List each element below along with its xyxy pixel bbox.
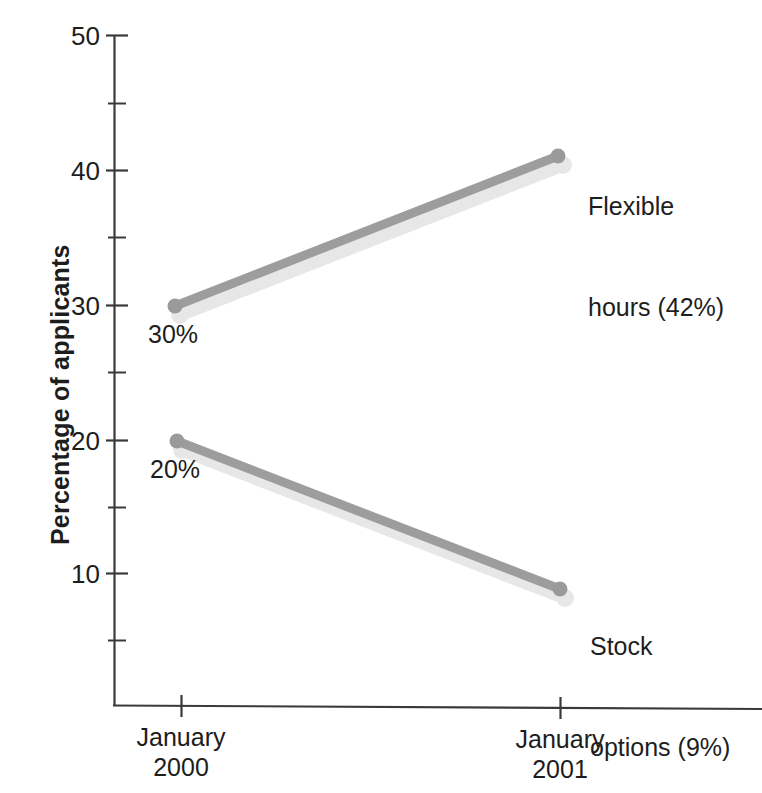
- y-tick-label-20: 20: [40, 426, 100, 457]
- y-axis-title: Percentage of applicants: [46, 244, 76, 545]
- y-tick-label-30: 30: [40, 291, 100, 322]
- series-label-flexible-hours-line1: Flexible: [588, 190, 724, 224]
- line-chart: Percentage of applicants 50 40 30 20 10 …: [0, 0, 762, 793]
- stock-options-line[interactable]: [177, 441, 560, 589]
- y-tick-label-10: 10: [40, 559, 100, 590]
- stock-options-end-marker[interactable]: [553, 582, 568, 597]
- y-axis-minor-ticks: [108, 104, 126, 641]
- x-tick-label-january-2000-line2: 2000: [71, 753, 291, 783]
- series-shadows: [171, 156, 574, 607]
- flexible-hours-line[interactable]: [175, 156, 558, 306]
- flexible-hours-line-shadow: [180, 165, 563, 315]
- series-lines: [168, 149, 568, 597]
- flexible-hours-end-marker[interactable]: [551, 149, 566, 164]
- flexible-hours-start-marker[interactable]: [168, 299, 183, 314]
- series-label-stock-options-line2: options (9%): [590, 731, 730, 765]
- stock-options-line-shadow: [182, 450, 565, 598]
- x-tick-label-january-2000-line1: January: [71, 723, 291, 753]
- series-label-stock-options-line1: Stock: [590, 630, 730, 664]
- stock-options-start-marker[interactable]: [170, 434, 185, 449]
- y-axis-major-ticks: [106, 36, 128, 574]
- y-tick-label-50: 50: [40, 21, 100, 52]
- series-label-flexible-hours: Flexible hours (42%): [588, 122, 724, 392]
- data-label-stock-options-start: 20%: [150, 455, 200, 485]
- y-tick-label-40: 40: [40, 156, 100, 187]
- series-label-stock-options: Stock options (9%): [590, 562, 730, 793]
- data-label-flexible-hours-start: 30%: [148, 320, 198, 350]
- series-label-flexible-hours-line2: hours (42%): [588, 291, 724, 325]
